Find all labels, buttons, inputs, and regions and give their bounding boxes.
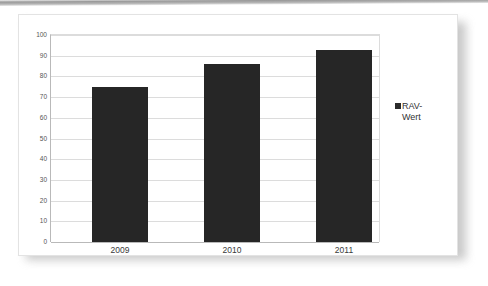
figure-card: 100 90 80 70 60 50 40 30 xyxy=(18,14,458,256)
y-tick-label-70: 70 xyxy=(40,94,47,101)
bar-2009[interactable] xyxy=(92,87,148,242)
bars-layer xyxy=(51,35,379,242)
y-tick-label-50: 50 xyxy=(40,135,47,142)
y-tick-label-90: 90 xyxy=(40,52,47,59)
y-tick-label-60: 60 xyxy=(40,115,47,122)
legend-label-rav-wert: RAV- Wert xyxy=(402,101,422,123)
plot-area: 100 90 80 70 60 50 40 30 xyxy=(50,34,380,242)
page-edge-artifact xyxy=(0,0,488,6)
x-tick-label-2010: 2010 xyxy=(177,245,287,255)
y-tick-label-20: 20 xyxy=(40,197,47,204)
bar-2011[interactable] xyxy=(316,50,372,243)
y-tick-label-100: 100 xyxy=(36,32,47,39)
y-tick-label-30: 30 xyxy=(40,177,47,184)
x-tick-label-2009: 2009 xyxy=(65,245,175,255)
x-axis-line: 0 xyxy=(51,242,379,243)
legend-swatch-icon xyxy=(395,103,401,109)
legend-entry-rav-wert[interactable]: RAV- Wert xyxy=(395,101,455,123)
x-tick-label-2011: 2011 xyxy=(289,245,399,255)
bar-2010[interactable] xyxy=(204,64,260,242)
y-tick-label-10: 10 xyxy=(40,218,47,225)
y-tick-label-0: 0 xyxy=(43,239,47,246)
y-tick-label-40: 40 xyxy=(40,156,47,163)
legend: RAV- Wert xyxy=(395,101,455,123)
bar-chart: 100 90 80 70 60 50 40 30 xyxy=(19,15,459,257)
y-tick-label-80: 80 xyxy=(40,73,47,80)
